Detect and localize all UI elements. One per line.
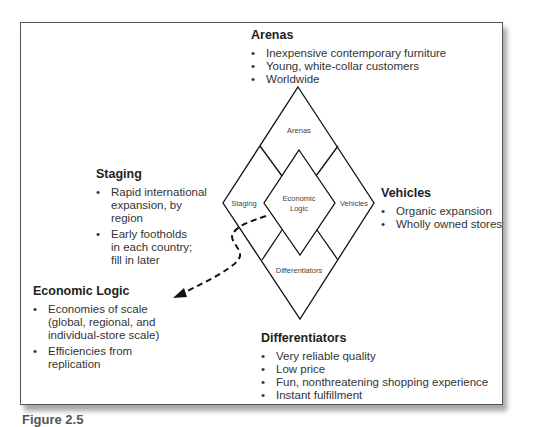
vehicles-item: Wholly owned stores — [381, 218, 502, 231]
economic-logic-block: Economic Logic Economies of scale (globa… — [33, 285, 183, 374]
divider-top-right — [316, 146, 338, 176]
segment-label-economic: Economic — [283, 194, 316, 203]
segment-label-differentiators: Differentiators — [276, 266, 323, 275]
arenas-item: Worldwide — [251, 73, 446, 86]
segment-label-arenas: Arenas — [287, 126, 311, 135]
differentiators-block: Differentiators Very reliable quality Lo… — [261, 332, 488, 402]
staging-item: Early footholds in each country; fill in… — [96, 228, 193, 267]
segment-label-staging: Staging — [231, 199, 256, 208]
segment-label-logic: Logic — [290, 204, 308, 213]
staging-item: Rapid international expansion, by region — [96, 186, 211, 225]
differentiators-item: Low price — [261, 363, 488, 376]
differentiators-item: Instant fulfillment — [261, 389, 488, 402]
vehicles-title: Vehicles — [381, 187, 502, 200]
economic-logic-title: Economic Logic — [33, 285, 183, 298]
divider-bottom-left — [262, 230, 282, 260]
divider-bottom-right — [317, 230, 338, 260]
vehicles-item: Organic expansion — [381, 205, 502, 218]
arenas-item: Inexpensive contemporary furniture — [251, 47, 446, 60]
differentiators-item: Very reliable quality — [261, 350, 488, 363]
divider-top-left — [260, 146, 282, 176]
differentiators-title: Differentiators — [261, 332, 488, 345]
arenas-item: Young, white-collar customers — [251, 60, 446, 73]
vehicles-block: Vehicles Organic expansion Wholly owned … — [381, 187, 502, 231]
staging-block: Staging Rapid international expansion, b… — [96, 168, 211, 270]
segment-label-vehicles: Vehicles — [340, 199, 368, 208]
economic-logic-item: Efficiencies from replication — [33, 345, 183, 371]
arenas-block: Arenas Inexpensive contemporary furnitur… — [251, 29, 446, 86]
economic-logic-item: Economies of scale (global, regional, an… — [33, 303, 176, 342]
arenas-title: Arenas — [251, 29, 446, 42]
staging-title: Staging — [96, 168, 211, 181]
differentiators-item: Fun, nonthreatening shopping experience — [261, 376, 488, 389]
figure-caption: Figure 2.5 — [22, 412, 83, 427]
